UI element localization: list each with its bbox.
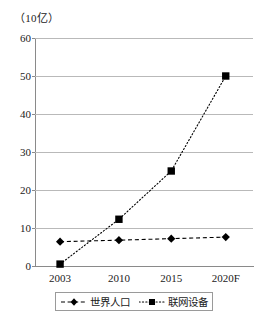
x-tick-label: 2015 — [160, 272, 182, 284]
data-point-diamond-marker — [56, 238, 64, 246]
diamond-marker-icon — [61, 297, 87, 307]
data-point-diamond-marker — [115, 236, 123, 244]
legend-label-connected-devices: 联网设备 — [168, 294, 208, 309]
line-chart: （10亿） 0102030405060 2003201020152020F 世界… — [0, 0, 267, 320]
y-tick-label: 60 — [20, 32, 31, 44]
x-tick-label: 2003 — [49, 272, 71, 284]
data-point-diamond-marker — [222, 233, 230, 241]
series-line-world-population — [60, 237, 226, 242]
series-line-connected-devices — [60, 76, 226, 264]
data-point-diamond-marker — [167, 235, 175, 243]
chart-legend: 世界人口 联网设备 — [55, 292, 213, 311]
y-tick-label: 30 — [20, 146, 31, 158]
y-tick-label: 0 — [26, 260, 32, 272]
legend-label-world-population: 世界人口 — [90, 294, 130, 309]
data-point-square-marker — [56, 260, 63, 267]
x-tick-label: 2020F — [212, 272, 240, 284]
legend-item-connected-devices[interactable]: 联网设备 — [139, 294, 208, 309]
data-point-square-marker — [222, 72, 229, 79]
y-tick-label: 50 — [20, 70, 31, 82]
y-tick-label: 40 — [20, 108, 31, 120]
square-marker-icon — [139, 297, 165, 307]
x-tick-label: 2010 — [108, 272, 130, 284]
data-point-square-marker — [115, 216, 122, 223]
data-series-layer — [35, 38, 253, 267]
y-tick-label: 10 — [20, 222, 31, 234]
y-tick-label: 20 — [20, 184, 31, 196]
plot-area: 0102030405060 2003201020152020F — [35, 38, 253, 266]
data-point-square-marker — [168, 167, 175, 174]
legend-item-world-population[interactable]: 世界人口 — [61, 294, 130, 309]
y-axis-unit-label: （10亿） — [14, 9, 60, 25]
